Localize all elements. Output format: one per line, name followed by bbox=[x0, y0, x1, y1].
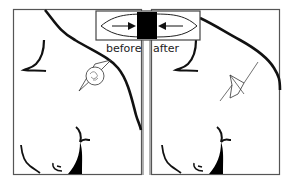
black-bar bbox=[137, 12, 157, 39]
label-after: after bbox=[153, 42, 180, 55]
before-after-diagram: before after bbox=[0, 0, 291, 185]
label-before: before bbox=[106, 42, 142, 55]
